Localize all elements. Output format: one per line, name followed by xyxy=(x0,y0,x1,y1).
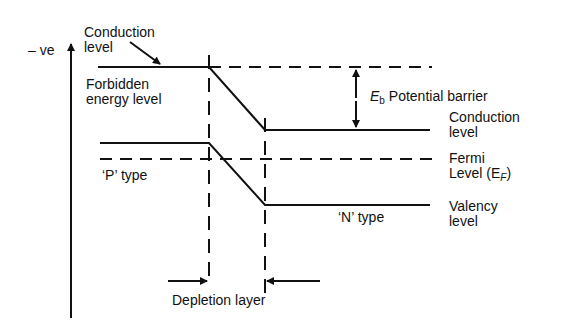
p-type-label: ‘P’ type xyxy=(102,168,147,183)
conduction-level-label-right: Conduction level xyxy=(449,110,520,140)
fermi-level-label: Fermi Level (EF) xyxy=(449,151,511,185)
potential-barrier-label: Eb Potential barrier xyxy=(370,89,488,108)
axis-label: – ve xyxy=(28,43,54,58)
conduction-level-label-left: Conduction level xyxy=(84,25,155,55)
depletion-layer-label: Depletion layer xyxy=(172,293,265,308)
valency-level-label: Valency level xyxy=(449,199,498,229)
n-type-label: ‘N’ type xyxy=(338,210,384,225)
forbidden-energy-label: Forbidden energy level xyxy=(86,77,162,107)
